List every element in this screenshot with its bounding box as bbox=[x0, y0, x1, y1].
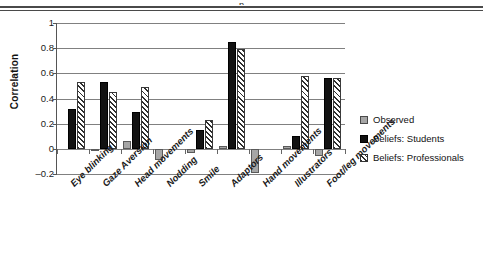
legend-item-students: Beliefs: Students bbox=[360, 129, 482, 148]
bar-professionals bbox=[109, 92, 118, 149]
bar-observed bbox=[187, 149, 196, 153]
page-header-rules: p bbox=[0, 0, 483, 12]
y-tick-label: –0.2 bbox=[14, 169, 54, 179]
legend-label-professionals: Beliefs: Professionals bbox=[373, 152, 464, 163]
professionals-swatch-icon bbox=[360, 154, 368, 162]
x-tick-mark bbox=[345, 149, 346, 154]
y-tick-label: 0.4 bbox=[14, 94, 54, 104]
y-tick-label: 0.8 bbox=[14, 43, 54, 53]
bar-observed bbox=[283, 146, 292, 149]
students-swatch-icon bbox=[360, 135, 368, 143]
gridline bbox=[57, 23, 345, 24]
legend-label-students: Beliefs: Students bbox=[373, 133, 444, 144]
bar-observed bbox=[123, 141, 132, 149]
bar-students bbox=[68, 109, 77, 149]
header-rule-top bbox=[0, 6, 483, 8]
bar-chart: Correlation 10.80.60.40.20–0.2 Eye blink… bbox=[0, 14, 483, 270]
bar-professionals bbox=[237, 49, 246, 148]
bar-students bbox=[196, 130, 205, 149]
gridline bbox=[57, 48, 345, 49]
bar-students bbox=[228, 42, 237, 149]
bar-observed bbox=[219, 146, 228, 149]
y-tick-label: 0 bbox=[14, 144, 54, 154]
x-tick-mark bbox=[217, 149, 218, 154]
legend-item-observed: Observed bbox=[360, 110, 482, 129]
legend-item-professionals: Beliefs: Professionals bbox=[360, 148, 482, 167]
y-tick-label: 0.6 bbox=[14, 68, 54, 78]
bar-professionals bbox=[205, 120, 214, 149]
observed-swatch-icon bbox=[360, 116, 368, 124]
bar-professionals bbox=[77, 82, 86, 149]
y-tick-label: 0.2 bbox=[14, 119, 54, 129]
x-tick-mark bbox=[121, 149, 122, 154]
bar-students bbox=[324, 78, 333, 148]
y-axis-title: Correlation bbox=[9, 42, 20, 122]
x-tick-mark bbox=[281, 149, 282, 154]
x-tick-mark bbox=[57, 149, 58, 154]
legend-label-observed: Observed bbox=[373, 114, 414, 125]
chart-legend: Observed Beliefs: Students Beliefs: Prof… bbox=[360, 110, 482, 167]
header-rule-bottom bbox=[0, 10, 483, 11]
y-tick-label: 1 bbox=[14, 18, 54, 28]
bar-professionals bbox=[333, 78, 342, 148]
gridline bbox=[57, 73, 345, 74]
page-header-text: p bbox=[0, 0, 483, 5]
bar-students bbox=[100, 82, 109, 149]
